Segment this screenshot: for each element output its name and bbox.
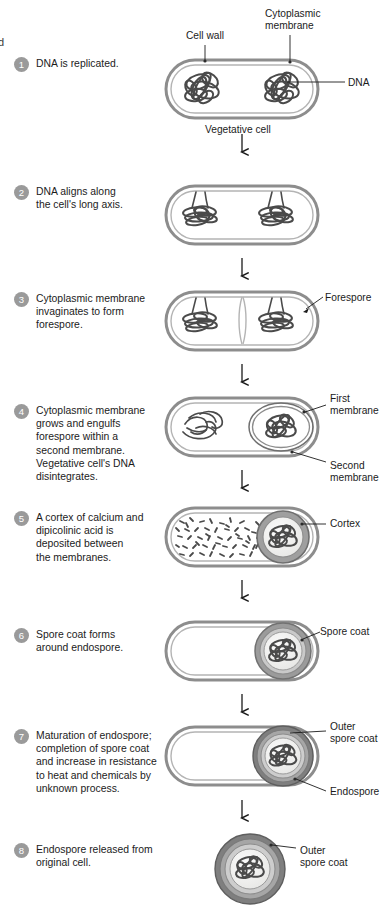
stage-3-cell (166, 292, 323, 350)
dna-stage3-left (183, 298, 218, 332)
dna-forespore-s4 (265, 412, 298, 439)
stage-6-cell (166, 622, 320, 680)
stage-5-cell (166, 508, 326, 566)
septum-right (243, 297, 246, 344)
dna-tangle-right (263, 70, 301, 106)
dna-tangle-left (183, 70, 221, 106)
diagram-canvas (0, 0, 384, 908)
stage-1-cell (166, 35, 345, 118)
stage-2-cell (166, 186, 318, 244)
leader-second-membrane (293, 452, 326, 462)
dna-aligned-left (183, 192, 218, 226)
endospore-formation-figure: d 1 DNA is replicated. 2 DNA aligns alon… (0, 0, 384, 908)
stage-8-endospore (215, 834, 296, 904)
dna-stage3-right (259, 298, 294, 332)
leader-endospore (296, 779, 326, 791)
stage-7-cell (166, 726, 326, 791)
cortex-material (176, 518, 260, 557)
stage-4-cell (166, 398, 326, 462)
dna-disintegrating (183, 412, 222, 439)
dna-aligned-right (259, 192, 294, 226)
septum-left (239, 297, 242, 344)
